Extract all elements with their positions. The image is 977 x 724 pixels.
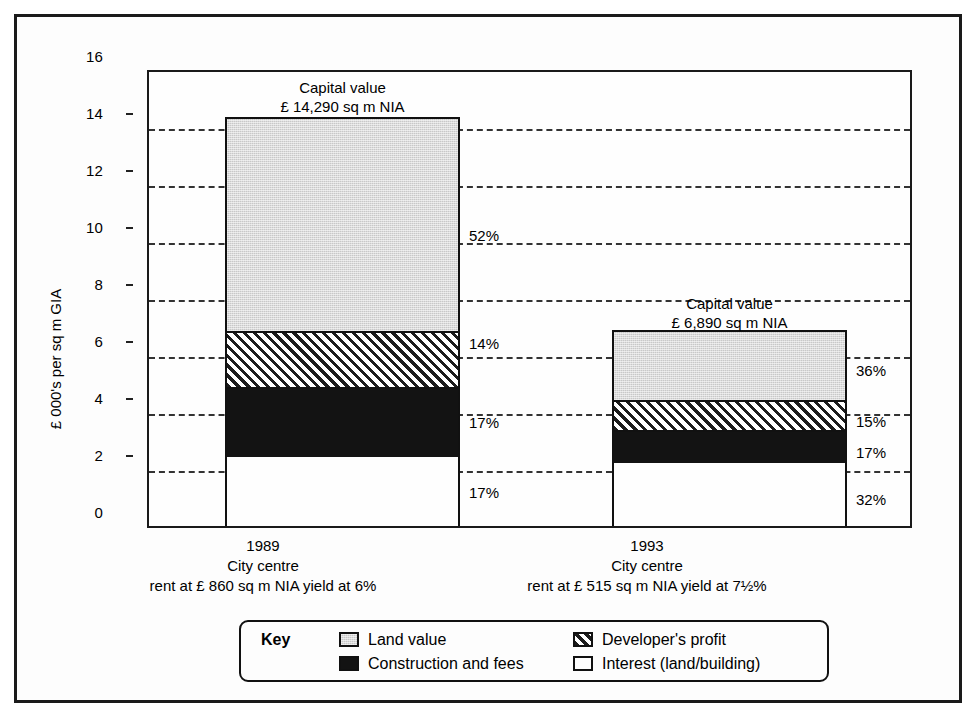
y-tick-label-12: 12 bbox=[69, 162, 103, 179]
bar-1989-segment-land-value bbox=[227, 117, 458, 331]
y-tick-mark bbox=[126, 341, 133, 343]
x-category-1993-detail: rent at £ 515 sq m NIA yield at 7½% bbox=[477, 576, 817, 596]
capital-value-note-1989: Capital value £ 14,290 sq m NIA bbox=[225, 78, 460, 116]
y-axis-title: £ 000's per sq m GIA bbox=[47, 288, 64, 428]
y-tick-label-0: 0 bbox=[69, 504, 103, 521]
legend-title: Key bbox=[261, 631, 290, 649]
bar-1993-segment-profit bbox=[614, 400, 845, 430]
capital-value-amount-1989: £ 14,290 sq m NIA bbox=[225, 97, 460, 116]
capital-value-note-1993: Capital value £ 6,890 sq m NIA bbox=[612, 294, 847, 332]
construction-and-fees-swatch-icon bbox=[339, 656, 359, 671]
pct-1989-profit: 14% bbox=[469, 335, 499, 352]
x-category-1993: 1993 City centre rent at £ 515 sq m NIA … bbox=[477, 536, 817, 596]
legend-item-land-value[interactable]: Land value bbox=[339, 631, 446, 649]
chart-frame: £ 000's per sq m GIA 16 14 12 10 8 6 4 2… bbox=[14, 14, 962, 703]
bar-1993[interactable] bbox=[612, 330, 847, 526]
legend-label-land-value: Land value bbox=[368, 631, 446, 648]
bar-1989-segment-interest bbox=[227, 457, 458, 526]
plot-area: Capital value £ 14,290 sq m NIA Capital … bbox=[147, 70, 912, 528]
y-tick-label-10: 10 bbox=[69, 219, 103, 236]
capital-value-title-1993: Capital value bbox=[612, 294, 847, 313]
y-tick-label-6: 6 bbox=[69, 333, 103, 350]
legend-label-developers-profit: Developer's profit bbox=[602, 631, 726, 648]
x-category-1989: 1989 City centre rent at £ 860 sq m NIA … bbox=[93, 536, 433, 596]
y-tick-mark bbox=[126, 170, 133, 172]
pct-1993-profit: 15% bbox=[856, 413, 886, 430]
legend-label-construction-and-fees: Construction and fees bbox=[368, 655, 524, 672]
bar-1993-segment-land-value bbox=[614, 330, 845, 400]
bar-1993-segment-construction bbox=[614, 430, 845, 463]
capital-value-title-1989: Capital value bbox=[225, 78, 460, 97]
bar-1989-segment-profit bbox=[227, 331, 458, 387]
x-category-1989-year: 1989 bbox=[93, 536, 433, 556]
y-tick-label-14: 14 bbox=[69, 105, 103, 122]
pct-1993-interest: 32% bbox=[856, 491, 886, 508]
pct-1989-construction: 17% bbox=[469, 414, 499, 431]
y-tick-mark bbox=[126, 113, 133, 115]
pct-1993-construction: 17% bbox=[856, 444, 886, 461]
y-tick-mark bbox=[126, 398, 133, 400]
y-tick-label-8: 8 bbox=[69, 276, 103, 293]
y-tick-label-4: 4 bbox=[69, 390, 103, 407]
bar-1993-segment-interest bbox=[614, 463, 845, 526]
x-category-1989-detail: rent at £ 860 sq m NIA yield at 6% bbox=[93, 576, 433, 596]
y-tick-mark bbox=[126, 455, 133, 457]
bar-1989[interactable] bbox=[225, 117, 460, 526]
x-category-1989-city: City centre bbox=[93, 556, 433, 576]
legend: Key Land value Developer's profit Constr… bbox=[239, 620, 829, 682]
pct-1993-land-value: 36% bbox=[856, 362, 886, 379]
x-category-1993-city: City centre bbox=[477, 556, 817, 576]
legend-label-interest: Interest (land/building) bbox=[602, 655, 760, 672]
pct-1989-land-value: 52% bbox=[469, 227, 499, 244]
y-tick-mark bbox=[126, 284, 133, 286]
pct-1989-interest: 17% bbox=[469, 484, 499, 501]
legend-item-interest[interactable]: Interest (land/building) bbox=[573, 655, 760, 673]
interest-swatch-icon bbox=[573, 656, 593, 671]
bar-1989-segment-construction bbox=[227, 387, 458, 457]
developers-profit-swatch-icon bbox=[573, 632, 593, 647]
y-tick-label-2: 2 bbox=[69, 447, 103, 464]
x-category-1993-year: 1993 bbox=[477, 536, 817, 556]
y-tick-mark bbox=[126, 227, 133, 229]
y-tick-label-16: 16 bbox=[69, 48, 103, 65]
legend-item-developers-profit[interactable]: Developer's profit bbox=[573, 631, 726, 649]
legend-item-construction-and-fees[interactable]: Construction and fees bbox=[339, 655, 524, 673]
capital-value-amount-1993: £ 6,890 sq m NIA bbox=[612, 313, 847, 332]
land-value-swatch-icon bbox=[339, 632, 359, 647]
